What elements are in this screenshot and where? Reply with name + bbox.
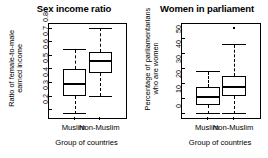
boxplot-cap-upper <box>63 49 86 50</box>
y-tick-mark <box>182 98 185 99</box>
boxplot-cap-lower <box>196 113 219 114</box>
axis-ticks-right <box>182 24 260 118</box>
x-tick-mark <box>74 117 75 120</box>
boxplot-cap-upper <box>89 28 112 29</box>
boxplot-box <box>89 52 112 73</box>
boxplot-cap-upper <box>196 71 219 72</box>
boxplot-whisker-lower <box>75 96 76 114</box>
axis-ticks-left <box>49 24 126 118</box>
boxplot-cap-lower <box>63 113 86 114</box>
y-axis-title-right: Percentage of parliamentarians who are w… <box>144 26 161 110</box>
x-tick-label-non-muslim: Non-Muslim <box>193 123 268 132</box>
boxplot-median <box>63 83 86 85</box>
plot-area-right <box>181 23 261 119</box>
x-tick-mark <box>207 117 208 120</box>
y-tick-mark <box>49 109 52 110</box>
boxplot-whisker-upper <box>100 28 101 52</box>
boxplot-whisker-lower <box>100 73 101 96</box>
x-tick-label-non-muslim: Non-Muslim <box>59 123 139 132</box>
panel-sex-income-ratio: Sex income ratio Ratio of female-to-male… <box>0 0 134 158</box>
boxplot-cap-lower <box>222 113 245 114</box>
chart-title-women-in-parliament: Women in parliament <box>134 3 268 14</box>
panel-women-in-parliament: Women in parliament Percentage of parlia… <box>134 0 268 158</box>
boxplot-whisker-upper <box>208 72 209 88</box>
x-axis-title-left: Group of countries <box>28 138 145 147</box>
y-axis-title-right-line2: who are women <box>152 26 160 110</box>
boxplot-whisker-lower <box>234 96 235 114</box>
boxplot-median <box>196 96 219 98</box>
boxplot-figure: Sex income ratio Ratio of female-to-male… <box>0 0 268 158</box>
y-axis-title-left-line2: earned income <box>16 26 24 110</box>
boxplot-cap-lower <box>89 96 112 97</box>
boxplot-median <box>222 86 245 88</box>
boxplot-outlier <box>233 27 235 29</box>
x-axis-title-right: Group of countries <box>161 138 268 147</box>
x-tick-mark <box>233 117 234 120</box>
chart-title-sex-income-ratio: Sex income ratio <box>0 3 134 14</box>
y-tick-mark <box>182 113 185 114</box>
y-axis-title-left: Ratio of female-to-male earned income <box>8 26 25 110</box>
boxplot-whisker-upper <box>75 50 76 69</box>
plot-area-left <box>48 23 127 119</box>
boxplot-median <box>89 60 112 62</box>
boxplot-cap-upper <box>222 44 245 45</box>
x-tick-mark <box>99 117 100 120</box>
boxplot-whisker-upper <box>234 45 235 76</box>
